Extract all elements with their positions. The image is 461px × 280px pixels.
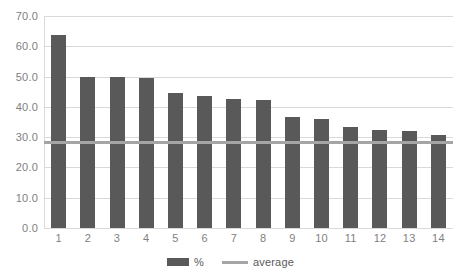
x-axis-tick-label: 11: [336, 232, 366, 244]
y-axis-tick-label: 10.0: [0, 192, 38, 204]
x-axis-tick-label: 13: [394, 232, 424, 244]
x-axis-tick-label: 4: [131, 232, 161, 244]
line-swatch-icon: [222, 261, 248, 264]
bar[interactable]: [80, 77, 95, 228]
bar-swatch-icon: [167, 258, 189, 266]
x-axis-tick-label: 3: [102, 232, 132, 244]
x-axis-tick-label: 8: [248, 232, 278, 244]
bar[interactable]: [226, 99, 241, 228]
legend-item-average[interactable]: average: [222, 256, 294, 268]
legend-label-average: average: [253, 256, 294, 268]
y-axis-tick-label: 30.0: [0, 131, 38, 143]
bar[interactable]: [168, 93, 183, 228]
x-axis-tick-label: 5: [160, 232, 190, 244]
gridline: [44, 228, 453, 229]
x-axis-tick-label: 1: [44, 232, 74, 244]
bar[interactable]: [402, 131, 417, 228]
chart-legend: % average: [0, 256, 461, 268]
bars-layer: [44, 16, 453, 228]
legend-item-percent[interactable]: %: [167, 256, 204, 268]
bar[interactable]: [110, 77, 125, 228]
bar[interactable]: [372, 130, 387, 228]
x-axis-tick-label: 14: [423, 232, 453, 244]
legend-label-percent: %: [194, 256, 204, 268]
x-axis-tick-label: 7: [219, 232, 249, 244]
bar[interactable]: [197, 96, 212, 228]
bar[interactable]: [314, 119, 329, 228]
bar[interactable]: [139, 78, 154, 228]
plot-area: [44, 16, 453, 228]
bar[interactable]: [256, 100, 271, 228]
bar[interactable]: [51, 35, 66, 228]
y-axis-tick-label: 0.0: [0, 222, 38, 234]
x-axis-tick-label: 12: [365, 232, 395, 244]
x-axis-tick-label: 10: [307, 232, 337, 244]
y-axis-tick-label: 50.0: [0, 71, 38, 83]
bar[interactable]: [285, 117, 300, 228]
bar[interactable]: [431, 135, 446, 228]
x-axis-tick-label: 6: [190, 232, 220, 244]
x-axis-tick-label: 2: [73, 232, 103, 244]
y-axis-tick-label: 20.0: [0, 161, 38, 173]
average-reference-line: [44, 141, 453, 144]
x-axis-tick-label: 9: [277, 232, 307, 244]
y-axis-tick-label: 40.0: [0, 101, 38, 113]
y-axis-tick-label: 60.0: [0, 40, 38, 52]
bar-chart: 70.060.050.040.030.020.010.00.0 12345678…: [0, 0, 461, 280]
y-axis-tick-label: 70.0: [0, 10, 38, 22]
